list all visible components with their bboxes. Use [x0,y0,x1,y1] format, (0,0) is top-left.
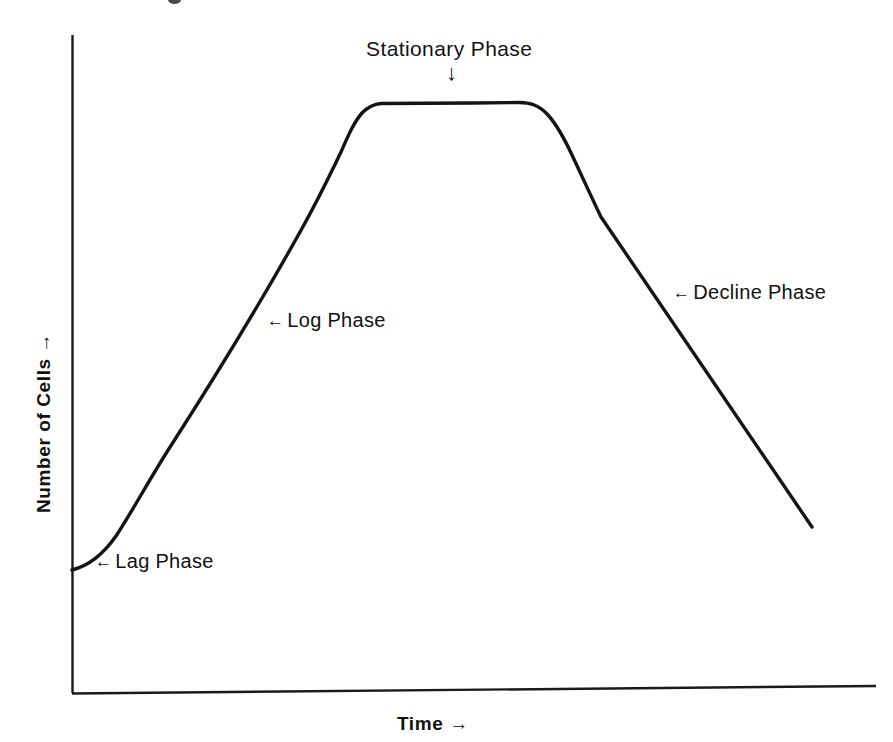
growth-curve-plot [0,0,893,742]
annotation-log-phase: ←Log Phase [267,310,386,330]
growth-curve-figure: Stationary Phase ↓ ←Log Phase ←Lag Phase… [0,0,893,742]
annotation-decline-phase-text: Decline Phase [693,281,826,303]
x-axis-line [72,686,876,694]
annotation-stationary-phase: Stationary Phase [366,38,532,59]
left-arrow-icon: ← [673,283,693,302]
down-arrow-icon: ↓ [446,62,457,84]
growth-curve-path [72,103,812,571]
annotation-lag-phase: ←Lag Phase [95,551,214,571]
annotation-lag-phase-text: Lag Phase [115,550,213,572]
annotation-decline-phase: ←Decline Phase [673,282,826,302]
x-axis-title: Time → [397,714,469,733]
annotation-log-phase-text: Log Phase [287,309,385,331]
y-axis-title: Number of Cells → [34,333,53,513]
left-arrow-icon: ← [95,552,115,571]
left-arrow-icon: ← [267,311,287,330]
